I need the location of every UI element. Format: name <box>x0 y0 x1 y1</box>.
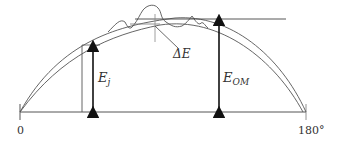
baseline-axis <box>20 104 306 120</box>
delta-e-label: ΔE <box>172 47 191 61</box>
axis-start-label: 0 <box>17 124 24 137</box>
energy-arc-diagram: Ej EOM ΔE 0 180° <box>0 0 337 142</box>
axis-end-label: 180° <box>298 124 325 137</box>
delta-e-leader-line <box>155 26 178 48</box>
outer-arc <box>20 18 306 112</box>
inner-arc <box>20 24 303 112</box>
ej-label: Ej <box>97 70 111 87</box>
eom-label: EOM <box>222 70 250 87</box>
